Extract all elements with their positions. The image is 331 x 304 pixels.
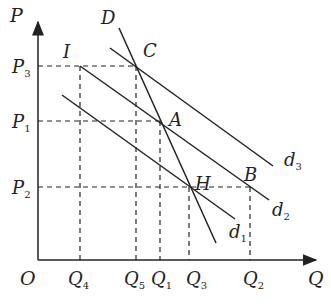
curve-d3-label: d3 [284,149,302,172]
svg-text:P3: P3 [11,56,31,79]
svg-text:Q5: Q5 [124,268,145,291]
svg-text:P1: P1 [11,111,31,134]
curve-D-label: D [100,7,116,28]
quantity-labels: Q4 Q5 Q1 Q3 Q2 [68,268,264,291]
guide-lines [38,66,250,260]
svg-text:Q2: Q2 [243,268,264,291]
svg-text:Q3: Q3 [186,268,207,291]
curve-d2 [80,66,269,200]
point-C-label: C [143,40,157,61]
y-axis-label: P [9,4,24,26]
x-axis-label: Q [308,267,324,289]
curve-d3 [110,48,273,166]
svg-text:Q4: Q4 [68,268,89,291]
economics-demand-diagram: P Q O P3 P1 P2 Q4 Q5 Q1 Q3 Q2 I C A H B … [0,0,331,304]
svg-text:P2: P2 [11,177,31,200]
curve-d2-label: d2 [272,199,290,222]
point-H-label: H [194,173,211,194]
curve-d1-label: d1 [229,221,247,244]
point-I-label: I [62,41,71,62]
svg-text:Q1: Q1 [151,268,172,291]
price-labels: P3 P1 P2 [11,56,31,200]
point-B-label: B [243,164,257,185]
origin-label: O [20,267,36,289]
curve-D [119,28,216,243]
point-A-label: A [167,109,182,130]
